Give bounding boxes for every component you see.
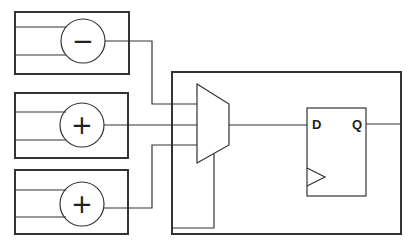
d-label: D [312, 117, 321, 132]
plus-icon: + [71, 189, 93, 219]
minus-icon: − [72, 26, 94, 56]
mux-shape [197, 84, 229, 163]
q-label: Q [352, 117, 362, 132]
register-block [172, 72, 401, 234]
add-unit-1: + [15, 93, 197, 158]
circuit-diagram: − + + D Q [0, 0, 413, 248]
mux-select-wire [172, 154, 214, 228]
clock-triangle-icon [307, 168, 325, 186]
plus-icon: + [71, 110, 93, 140]
subtract-unit: − [15, 12, 197, 104]
unit-3-output-wire [104, 145, 197, 208]
multiplexer [172, 84, 307, 228]
d-flipflop: D Q [307, 108, 400, 196]
